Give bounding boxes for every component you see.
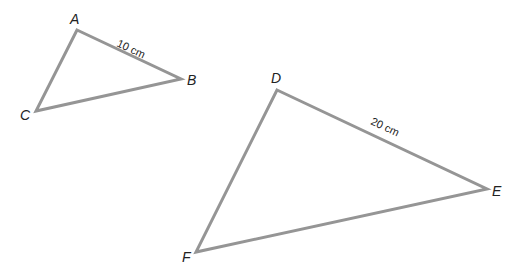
vertex-label-b: B (187, 72, 196, 88)
vertex-label-f: F (182, 249, 192, 265)
triangle-def (196, 90, 487, 252)
vertex-label-c: C (20, 107, 31, 123)
similar-triangles-diagram: A B C 10 cm D E F 20 cm (0, 0, 518, 276)
vertex-label-a: A (69, 11, 79, 27)
triangle-abc (36, 30, 181, 111)
vertex-label-d: D (271, 70, 281, 86)
vertex-label-e: E (492, 183, 502, 199)
